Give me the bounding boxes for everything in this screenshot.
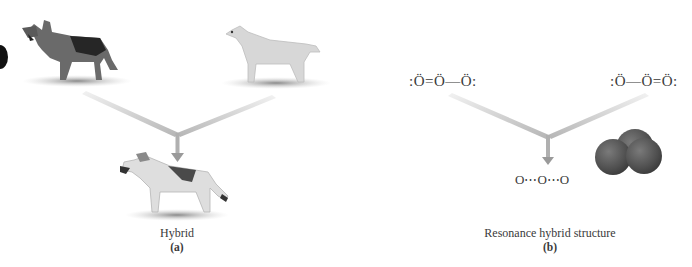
resonance-structure-left: :Ö=Ö—Ö: bbox=[409, 73, 477, 90]
panel-b-label: (b) bbox=[470, 241, 630, 253]
german-shepherd-dog-icon bbox=[22, 20, 132, 87]
panel-a-label: (a) bbox=[127, 241, 227, 253]
hybrid-dog-icon bbox=[120, 152, 229, 221]
ozone-space-filling-model-icon bbox=[595, 129, 662, 175]
labrador-retriever-dog-icon bbox=[221, 26, 331, 89]
cropped-circle-icon bbox=[0, 45, 8, 69]
hybrid-caption: Hybrid bbox=[127, 226, 227, 241]
resonance-hybrid-formula: O⋯O⋯O bbox=[515, 172, 569, 188]
combine-arrow-a bbox=[82, 91, 276, 162]
resonance-structure-right: :Ö—Ö=Ö: bbox=[610, 73, 678, 90]
resonance-hybrid-caption: Resonance hybrid structure bbox=[470, 226, 630, 241]
